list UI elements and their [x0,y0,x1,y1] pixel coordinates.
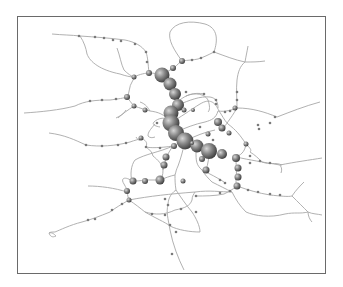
minor-station-node [213,51,216,54]
network-edge [148,124,155,138]
minor-station-node [87,219,90,222]
station-node [132,104,137,109]
network-edge [80,36,134,77]
minor-station-node [219,179,222,182]
minor-station-node [164,214,167,217]
minor-station-node [247,189,250,192]
minor-station-node [159,147,162,150]
minor-station-node [121,203,124,206]
station-node [156,176,165,185]
minor-station-node [257,124,260,127]
station-node [233,106,238,111]
station-nodes [124,58,249,203]
minor-station-node [145,146,148,149]
station-node [234,183,241,190]
minor-station-node [101,145,104,148]
minor-station-node [103,37,106,40]
station-node [161,162,168,169]
minor-station-node [236,99,239,102]
minor-station-node [85,144,88,147]
minor-station-node [257,191,260,194]
network-edge [24,97,127,113]
network-edge [49,200,129,233]
station-node [163,154,170,161]
minor-station-node [175,231,178,234]
station-node [170,65,176,71]
station-node [143,108,148,113]
network-edge [232,192,308,216]
minor-station-node [164,198,167,201]
network-edge [292,182,304,196]
network-edge [280,165,282,173]
station-node [181,179,186,184]
minor-station-node [236,91,239,94]
station-node [171,143,177,149]
station-node [169,88,181,100]
minor-station-node [229,190,232,193]
minor-station-node [169,224,172,227]
station-node [235,165,242,172]
minor-station-node [117,144,120,147]
station-node [127,198,132,203]
minor-station-node [120,40,123,43]
network-edge [237,186,292,196]
minor-station-node [229,110,232,113]
minor-station-node [249,155,252,158]
minor-station-node [78,35,81,38]
minor-station-node [274,116,277,119]
minor-station-node [215,99,218,102]
minor-station-node [112,39,115,42]
minor-station-node [151,213,154,216]
network-edge [88,186,127,192]
minor-station-node [167,204,170,207]
station-node [235,174,242,181]
station-node [244,142,249,147]
network-edge [214,52,265,62]
minor-station-node [269,122,272,125]
network-edge [116,110,126,118]
minor-station-node [146,61,149,64]
minor-station-node [180,208,183,211]
station-node [217,149,227,159]
network-edge [127,77,135,97]
minor-station-node [156,122,159,125]
station-node [130,178,137,185]
minor-station-node [111,209,114,212]
station-node [227,131,232,136]
station-node [179,58,185,64]
station-node [203,167,210,174]
station-node [199,156,205,162]
minor-station-node [269,162,272,165]
network-edge [236,160,237,186]
minor-station-node [258,128,261,131]
network-edge [49,133,141,146]
minor-station-node [203,93,206,96]
minor-station-node [212,139,215,142]
station-node [139,136,144,141]
network-edge [182,52,214,61]
network-edge [49,233,56,237]
network-edge [237,102,320,117]
minor-station-node [94,218,97,221]
station-node [190,141,194,145]
station-node [124,94,130,100]
minor-station-node [125,142,128,145]
minor-station-node [219,192,222,195]
station-node [191,108,195,112]
network-edge [52,34,149,73]
network-graph [0,0,343,287]
minor-station-node [171,253,174,256]
minor-station-node [115,98,118,101]
minor-station-node [89,100,92,103]
network-edge [245,46,248,62]
minor-station-node [279,194,282,197]
station-node [206,132,211,137]
network-edge [145,212,200,232]
network-edge [237,62,245,108]
minor-station-node [249,162,252,165]
minor-station-node [145,51,148,54]
minor-station-node [199,126,202,129]
minor-station-node [259,160,262,163]
minor-station-node [224,182,227,185]
minor-station-node [215,103,218,106]
